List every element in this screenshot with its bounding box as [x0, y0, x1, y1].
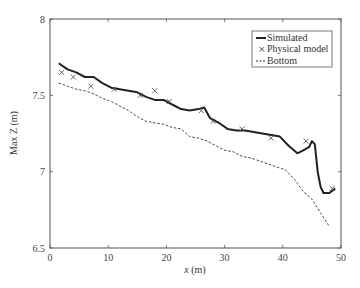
- x-tick-label: 10: [103, 252, 113, 263]
- y-tick-label: 7: [40, 166, 45, 177]
- legend-item-simulated: Simulated: [267, 32, 308, 43]
- x-axis-label: x (m): [183, 264, 205, 276]
- legend-item-bottom: Bottom: [267, 55, 297, 66]
- y-axis-label: Max Z (m): [8, 111, 20, 155]
- legend: Simulated × Physical model Bottom: [252, 31, 332, 67]
- x-tick-label: 20: [161, 252, 171, 263]
- y-tick-label: 6.5: [33, 243, 46, 254]
- x-tick-label: 40: [278, 252, 288, 263]
- chart-canvas: 010203040506.577.58 x (m) Max Z (m) Simu…: [0, 0, 360, 288]
- x-axis-label-unit: (m): [189, 264, 206, 276]
- legend-x-marker-icon: ×: [258, 44, 266, 54]
- legend-item-physical-model: Physical model: [267, 43, 329, 54]
- x-tick-label: 0: [48, 252, 53, 263]
- y-tick-label: 7.5: [33, 90, 46, 101]
- x-tick-label: 30: [220, 252, 230, 263]
- y-tick-label: 8: [40, 14, 45, 25]
- x-tick-label: 50: [336, 252, 346, 263]
